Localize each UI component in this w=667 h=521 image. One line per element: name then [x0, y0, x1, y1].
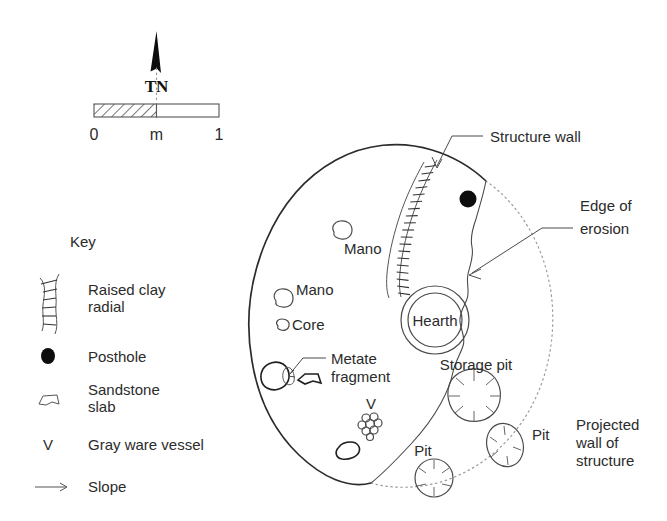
scale-label-min: 0 [90, 126, 99, 143]
posthole-symbol [41, 348, 55, 364]
key-title: Key [70, 233, 96, 250]
radial-rung [398, 251, 410, 252]
scale-label-unit: m [150, 126, 163, 143]
metate-label-line2: fragment [331, 368, 391, 385]
pit-right-label: Pit [532, 426, 550, 443]
site-plan-figure: TN 0 m 1 Key Raise [0, 0, 667, 521]
pit-left-label: Pit [414, 442, 432, 459]
key-label-posthole: Posthole [88, 348, 146, 365]
hearth-label: Hearth [412, 312, 457, 329]
site-plan-svg: TN 0 m 1 Key Raise [0, 0, 667, 521]
posthole-marker [460, 191, 477, 208]
scale-bar-hatched-half [94, 104, 157, 117]
metate-label-line1: Metate [331, 350, 377, 367]
key-label-slope: Slope [88, 478, 126, 495]
key-label-sandstone-line1: Sandstone [88, 381, 160, 398]
mano-lower-label: Mano [296, 281, 334, 298]
vessel-marker-label: V [366, 395, 376, 412]
scale-bar-open-half [157, 104, 220, 117]
gray-ware-vessel-symbol: V [43, 436, 53, 453]
key-label-gray-ware: Gray ware vessel [88, 436, 204, 453]
structure-wall-label: Structure wall [490, 128, 581, 145]
storage-pit-label: Storage pit [440, 356, 513, 373]
projected-wall-label-line2: wall of [575, 434, 619, 451]
north-arrow-label: TN [145, 77, 169, 96]
edge-of-erosion-label-line1: Edge of [580, 197, 633, 214]
key-label-sandstone-line2: slab [88, 398, 116, 415]
mano-upper-label: Mano [344, 240, 382, 257]
key-label-raised-clay-line2: radial [88, 298, 125, 315]
projected-wall-label-line1: Projected [576, 416, 639, 433]
projected-wall-label-line3: structure [576, 452, 634, 469]
radial-rung [408, 208, 420, 209]
core-label: Core [292, 316, 325, 333]
edge-of-erosion-label-line2: erosion [580, 220, 629, 237]
scale-label-max: 1 [215, 126, 224, 143]
key-label-raised-clay-line1: Raised clay [88, 281, 166, 298]
